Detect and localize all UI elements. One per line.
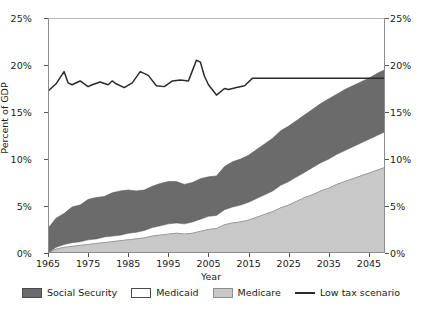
chart-figure: Percent of GDP 0%0%5%5%10%10%15%15%20%20… [0,0,422,311]
light-gray-swatch-icon [213,288,233,298]
y-tick-label-right: 10% [390,159,411,170]
y-tick-label-left: 5% [17,206,32,217]
x-tick-label: 2025 [277,258,301,269]
x-tick-label: 2045 [357,258,381,269]
x-tick-mark [168,253,169,257]
x-tick-mark [88,253,89,257]
y-tick-mark [385,65,389,66]
plot-border [48,18,385,253]
y-tick-label-right: 20% [390,65,411,76]
white-swatch-icon [131,288,151,298]
black-line-swatch-icon [295,292,315,294]
x-tick-label: 2005 [196,258,220,269]
y-tick-label-right: 0% [390,253,405,264]
x-tick-label: 1975 [76,258,100,269]
legend-label: Medicare [238,287,281,298]
y-tick-label-left: 15% [11,112,32,123]
x-tick-mark [369,253,370,257]
y-tick-mark [385,18,389,19]
x-tick-label: 2035 [317,258,341,269]
plot-area [48,18,385,253]
legend-item-medicaid: Medicaid [131,287,198,298]
chart-legend: Social Security Medicaid Medicare Low ta… [0,287,422,298]
x-tick-label: 1995 [156,258,180,269]
x-tick-label: 1985 [116,258,140,269]
legend-item-medicare: Medicare [213,287,281,298]
legend-label: Low tax scenario [320,287,400,298]
x-tick-label: 1965 [36,258,60,269]
dark-gray-swatch-icon [22,288,42,298]
y-tick-mark [385,253,389,254]
legend-label: Medicaid [156,287,198,298]
y-axis-title: Percent of GDP [0,82,10,153]
x-tick-mark [128,253,129,257]
x-tick-mark [48,253,49,257]
y-tick-label-right: 5% [390,206,405,217]
y-tick-label-left: 10% [11,159,32,170]
y-tick-mark [385,159,389,160]
y-tick-mark [385,206,389,207]
x-tick-label: 2015 [237,258,261,269]
x-tick-mark [249,253,250,257]
legend-item-low-tax-scenario: Low tax scenario [295,287,400,298]
y-tick-label-left: 20% [11,65,32,76]
x-tick-mark [329,253,330,257]
y-tick-label-left: 0% [17,253,32,264]
y-tick-mark [385,112,389,113]
x-tick-mark [289,253,290,257]
legend-item-social-security: Social Security [22,287,117,298]
legend-label: Social Security [47,287,117,298]
y-tick-label-left: 25% [11,18,32,29]
x-tick-mark [208,253,209,257]
x-axis-title: Year [0,271,422,282]
y-tick-label-right: 15% [390,112,411,123]
y-tick-label-right: 25% [390,18,411,29]
